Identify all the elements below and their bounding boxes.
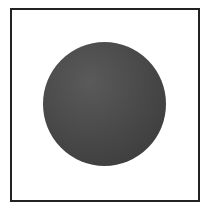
gray-sphere [43, 42, 166, 166]
